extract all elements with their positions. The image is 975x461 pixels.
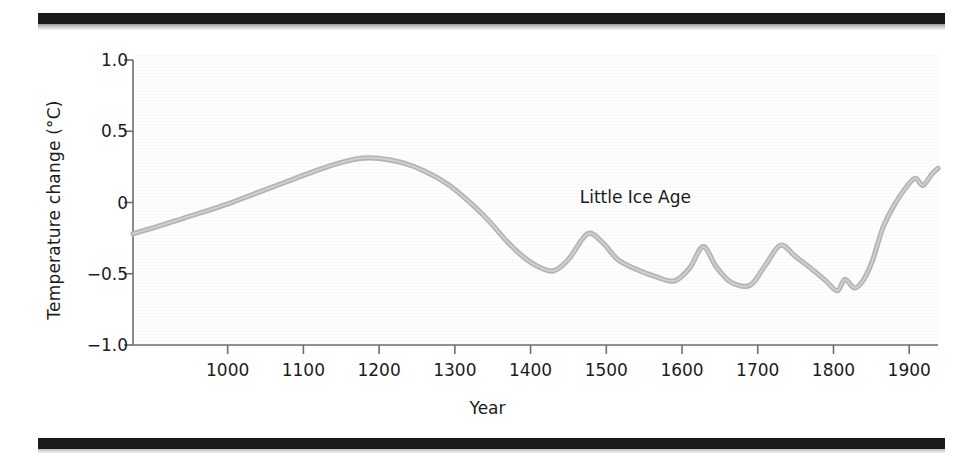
chart-figure: 1.00.50−0.5−1.0 100011001200130014001500…: [0, 0, 975, 461]
y-tick-label: 0.5: [76, 121, 128, 141]
y-tick-label: −0.5: [76, 264, 128, 284]
little-ice-age-annotation: Little Ice Age: [580, 187, 691, 207]
y-tick-label: 1.0: [76, 50, 128, 70]
y-tick-labels: 1.00.50−0.5−1.0: [72, 0, 128, 461]
y-tick-label: 0: [76, 193, 128, 213]
axes: [133, 60, 938, 345]
temperature-curve: [133, 158, 938, 291]
x-tick-marks: [228, 345, 910, 354]
chart-svg: [0, 0, 975, 461]
x-axis-title: Year: [0, 398, 975, 418]
y-tick-label: −1.0: [76, 335, 128, 355]
x-tick-label: 1900: [864, 360, 954, 380]
y-axis-title: Temperature change (°C): [44, 60, 64, 360]
